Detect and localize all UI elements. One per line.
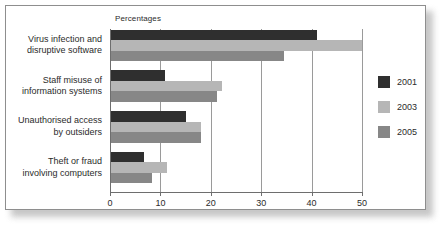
x-tick-label-30: 30 <box>256 198 266 208</box>
bar <box>111 40 362 51</box>
legend-item-2005[interactable]: 2005 <box>378 119 417 144</box>
legend-label: 2005 <box>397 127 417 137</box>
x-tick-20 <box>211 192 212 196</box>
bar <box>111 122 201 133</box>
bar <box>111 132 201 143</box>
bar <box>111 91 217 102</box>
x-axis-title: Percentages <box>115 14 161 23</box>
legend-item-2001[interactable]: 2001 <box>378 69 417 94</box>
bar <box>111 111 186 122</box>
chart-frame: Percentages Virus infection anddisruptiv… <box>5 5 426 210</box>
x-tick-50 <box>362 192 363 196</box>
category-label-line: Staff misuse of <box>4 75 102 87</box>
legend-item-2003[interactable]: 2003 <box>378 94 417 119</box>
gridline-40 <box>312 29 313 192</box>
x-tick-0 <box>110 192 111 196</box>
legend-label: 2003 <box>397 102 417 112</box>
bar <box>111 51 284 62</box>
category-label: Theft or fraudinvolving computers <box>4 156 102 179</box>
x-tick-label-10: 10 <box>155 198 165 208</box>
x-tick-10 <box>160 192 161 196</box>
x-tick-label-50: 50 <box>357 198 367 208</box>
category-label-line: involving computers <box>4 168 102 180</box>
category-label: Unauthorised accessby outsiders <box>4 115 102 138</box>
x-tick-30 <box>261 192 262 196</box>
category-label-line: Theft or fraud <box>4 156 102 168</box>
x-tick-label-40: 40 <box>307 198 317 208</box>
bar <box>111 162 167 173</box>
legend-swatch-icon <box>378 101 390 113</box>
x-axis-line <box>110 192 362 193</box>
bar <box>111 70 165 81</box>
bar <box>111 30 317 41</box>
x-tick-40 <box>312 192 313 196</box>
x-tick-label-20: 20 <box>206 198 216 208</box>
category-axis-labels: Virus infection anddisruptive softwareSt… <box>6 29 106 192</box>
bar <box>111 173 152 184</box>
x-tick-label-0: 0 <box>107 198 112 208</box>
category-label-line: by outsiders <box>4 127 102 139</box>
legend-swatch-icon <box>378 76 390 88</box>
category-label: Staff misuse ofinformation systems <box>4 75 102 98</box>
plot-area: 01020304050 <box>110 29 362 192</box>
category-label-line: Virus infection and <box>4 34 102 46</box>
chart-legend: 200120032005 <box>378 69 417 144</box>
bar <box>111 81 222 92</box>
chart-figure: Percentages Virus infection anddisruptiv… <box>0 0 445 236</box>
category-label-line: disruptive software <box>4 45 102 57</box>
gridline-50 <box>362 29 363 192</box>
bar <box>111 152 144 163</box>
legend-label: 2001 <box>397 77 417 87</box>
category-label: Virus infection anddisruptive software <box>4 34 102 57</box>
plot-wrapper: Percentages Virus infection anddisruptiv… <box>6 6 427 211</box>
category-label-line: Unauthorised access <box>4 115 102 127</box>
legend-swatch-icon <box>378 126 390 138</box>
category-label-line: information systems <box>4 86 102 98</box>
